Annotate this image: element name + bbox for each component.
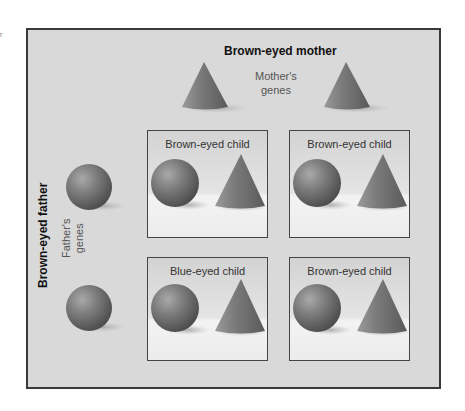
sphere-icon bbox=[64, 285, 128, 335]
cropped-text-fragment: r bbox=[0, 31, 6, 39]
sphere-icon bbox=[292, 284, 354, 338]
cone-icon bbox=[318, 58, 392, 114]
child-panel: Brown-eyed child bbox=[289, 257, 410, 361]
sphere-icon bbox=[292, 159, 354, 213]
cone-icon bbox=[212, 276, 268, 338]
father-genes-label-line2: genes bbox=[73, 219, 86, 258]
child-panel: Blue-eyed child bbox=[147, 257, 268, 361]
mother-title: Brown-eyed mother bbox=[224, 44, 337, 58]
mother-genes-label: Mother's genes bbox=[255, 69, 297, 97]
mother-genes-label-line2: genes bbox=[255, 83, 297, 97]
cone-icon bbox=[354, 151, 410, 213]
father-title: Brown-eyed father bbox=[36, 183, 50, 288]
sphere-icon bbox=[150, 159, 212, 213]
mother-genes-label-line1: Mother's bbox=[255, 69, 297, 83]
child-label: Brown-eyed child bbox=[290, 138, 409, 150]
sphere-icon bbox=[150, 284, 212, 338]
child-label: Brown-eyed child bbox=[148, 138, 267, 150]
father-genes-label: Father's genes bbox=[60, 219, 86, 258]
father-genes-label-line1: Father's bbox=[60, 219, 73, 258]
cone-icon bbox=[212, 151, 268, 213]
child-panel: Brown-eyed child bbox=[289, 130, 410, 238]
cone-icon bbox=[176, 58, 250, 114]
child-panel: Brown-eyed child bbox=[147, 130, 268, 238]
sphere-icon bbox=[64, 164, 128, 214]
cone-icon bbox=[354, 276, 410, 338]
